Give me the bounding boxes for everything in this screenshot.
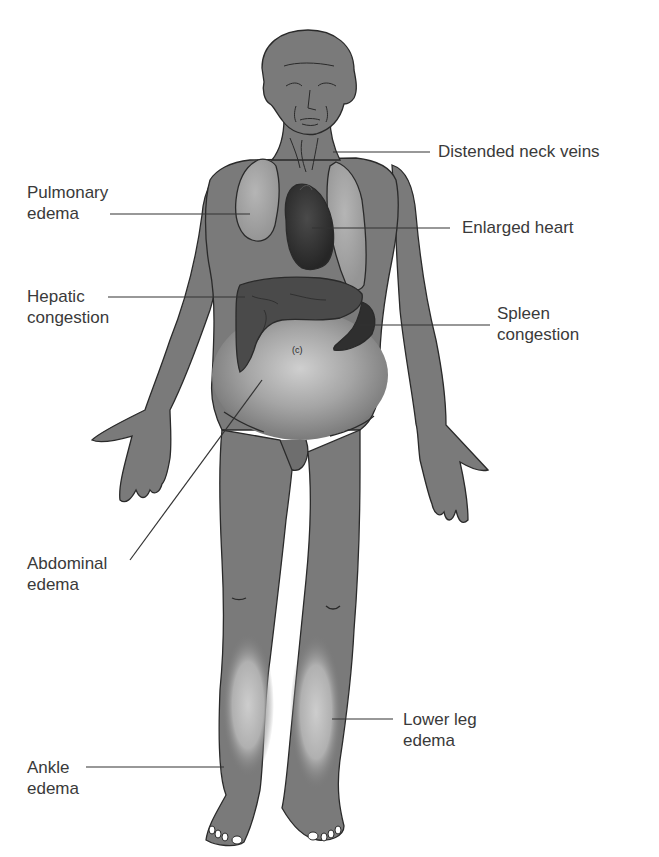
label-line: Distended neck veins: [438, 141, 600, 162]
label-line: edema: [27, 574, 107, 595]
label-hepatic-congestion: Hepatic congestion: [27, 286, 109, 328]
label-ankle-edema: Ankle edema: [27, 757, 79, 799]
label-line: Abdominal: [27, 553, 107, 574]
label-line: edema: [403, 730, 477, 751]
umbilicus-mark: (c): [292, 345, 303, 355]
lower-leg-edema-left: [222, 633, 274, 777]
label-line: Lower leg: [403, 709, 477, 730]
label-distended-neck-veins: Distended neck veins: [438, 141, 600, 162]
body-illustration: (c): [0, 0, 659, 857]
label-line: congestion: [497, 324, 579, 345]
heart-failure-diagram: (c) Distended neck veins Pulmonary edema…: [0, 0, 659, 857]
label-abdominal-edema: Abdominal edema: [27, 553, 107, 595]
label-line: Spleen: [497, 303, 579, 324]
label-spleen-congestion: Spleen congestion: [497, 303, 579, 345]
label-line: edema: [27, 203, 108, 224]
label-line: Ankle: [27, 757, 79, 778]
label-lower-leg-edema: Lower leg edema: [403, 709, 477, 751]
label-line: Pulmonary: [27, 182, 108, 203]
label-line: Enlarged heart: [462, 217, 574, 238]
label-pulmonary-edema: Pulmonary edema: [27, 182, 108, 224]
label-enlarged-heart: Enlarged heart: [462, 217, 574, 238]
lower-leg-edema-right: [290, 634, 342, 790]
label-line: congestion: [27, 307, 109, 328]
label-line: Hepatic: [27, 286, 109, 307]
label-line: edema: [27, 778, 79, 799]
